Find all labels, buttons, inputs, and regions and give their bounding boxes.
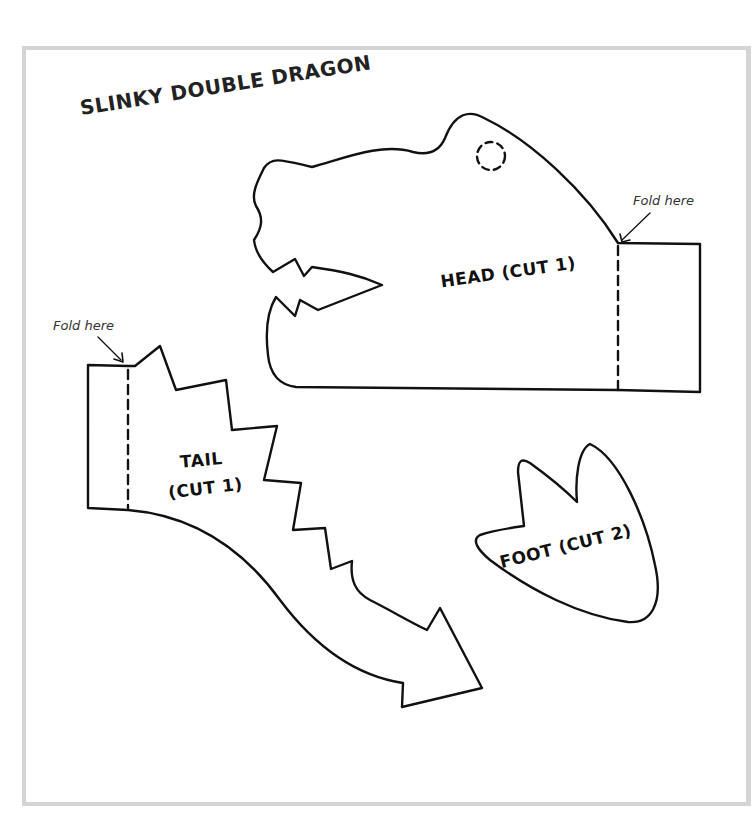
tail-outline — [88, 346, 482, 707]
tail-fold-arrow — [98, 337, 121, 360]
tail-fold-annotation: Fold here — [53, 318, 114, 333]
head-fold-annotation: Fold here — [633, 193, 694, 208]
eye-hole-marker — [477, 142, 505, 170]
cutout-shapes — [0, 0, 752, 837]
head-fold-arrow — [622, 213, 650, 240]
tail-piece-label: TAIL — [179, 448, 223, 472]
